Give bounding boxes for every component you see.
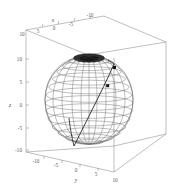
x-tick-0 [58,21,59,24]
z-tick-label-minus10: -10 [15,147,22,153]
sphere-meridian-8 [89,56,106,144]
x-tick-5 [42,24,43,27]
plot-figure: 10 5 0 -5 -10 z 10 5 0 -5 -10 x -10 -5 0… [0,0,176,192]
plot-canvas: 10 5 0 -5 -10 z 10 5 0 -5 -10 x -10 -5 0… [0,0,176,192]
x-tick-label-minus5: -5 [69,21,74,27]
z-tick-label-5: 5 [19,79,22,85]
sphere-meridian-11 [89,56,133,144]
x-tick-label-minus10: -10 [87,12,94,18]
x-tick-label-0: 0 [53,25,56,31]
y-tick-label-10: 10 [112,177,118,183]
z-tick-label-10: 10 [17,56,23,62]
bounding-box [26,16,166,172]
y-tick-label-0: 0 [75,167,78,173]
z-tick-label-0: 0 [19,102,22,108]
box-edge-bottom-rear [26,146,114,152]
box-edge-top-front-left [26,30,88,55]
x-axis-label: x [51,17,55,23]
z-axis-tick-labels: 10 5 0 -5 -10 [15,56,22,153]
trajectory-path-tail [69,118,74,146]
z-axis-label: z [8,102,12,108]
y-tick-label-minus10: -10 [33,158,40,164]
box-edge-top-front-right [88,42,166,55]
sphere-wireframe [45,56,133,144]
x-tick-label-10: 10 [19,31,25,37]
sphere-meridian-3 [62,56,89,144]
sphere-meridian-7 [89,56,97,144]
data-point-marker-2 [113,66,116,69]
z-tick-label-minus5: -5 [18,125,23,131]
x-tick-minus5 [74,18,75,21]
y-tick-label-5: 5 [95,171,98,177]
y-tick-label-minus5: -5 [54,162,59,168]
data-point-marker-1 [106,84,109,87]
box-edge-top-right-rear [104,16,166,42]
sphere-meridian-1 [45,56,89,144]
sphere-meridian-5 [81,56,89,144]
trajectory-path-main [74,64,114,146]
y-axis-label: y [74,177,78,183]
sphere-meridian-4 [72,56,89,144]
box-edge-bottom-front-right [114,134,166,172]
x-tick-label-5: 5 [37,28,40,34]
